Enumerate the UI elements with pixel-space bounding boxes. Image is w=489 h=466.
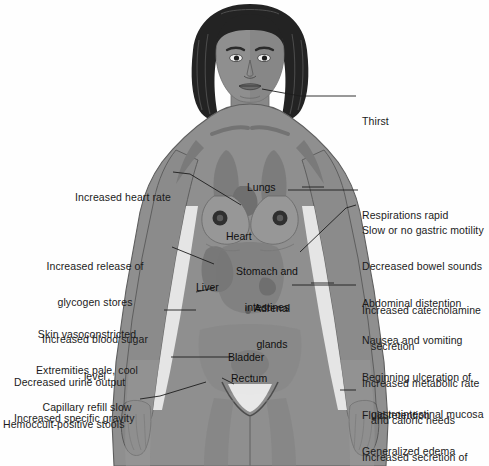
organ-label-adrenal-line1: Adrenal xyxy=(240,302,304,314)
callout-fluid-retention: Fluid retention Generalized edema Weight… xyxy=(362,384,489,466)
organ-label-rectum: Rectum xyxy=(231,372,267,384)
callout-increased-heart-rate: Increased heart rate xyxy=(21,166,171,227)
organ-label-lungs: Lungs xyxy=(247,181,276,193)
callout-line: Increased release of xyxy=(20,260,170,272)
callout-line: Decreased urine output xyxy=(14,376,176,388)
callout-line: Increased catecholamine xyxy=(362,304,489,316)
callout-line: Hemoccult-positive stools xyxy=(3,418,145,430)
callout-line: Slow or no gastric motility xyxy=(362,224,489,236)
head-face xyxy=(216,14,284,103)
callout-line: Generalized edema xyxy=(362,445,489,457)
callout-hemoccult-stools: Hemoccult-positive stools xyxy=(3,393,145,454)
organ-label-stomach-line1: Stomach and xyxy=(219,265,315,277)
callout-line: Thirst xyxy=(362,115,482,127)
callout-line: secretion xyxy=(362,340,489,352)
callout-line: Increased heart rate xyxy=(21,191,171,203)
callout-line: Skin vasoconstricted xyxy=(12,328,162,340)
shock-manifestations-diagram: Lungs Heart Stomach and intestines Liver… xyxy=(0,0,489,466)
callout-line: Fluid retention xyxy=(362,409,489,421)
organ-label-adrenal-line2: glands xyxy=(240,338,304,350)
organ-label-liver: Liver xyxy=(196,281,219,293)
callout-line: Decreased bowel sounds xyxy=(362,260,489,272)
organ-label-bladder: Bladder xyxy=(228,351,264,363)
callout-thirst: Thirst xyxy=(362,90,482,151)
